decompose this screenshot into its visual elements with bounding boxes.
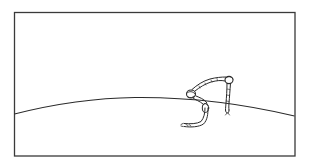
illustration	[0, 0, 314, 165]
frame-border	[15, 13, 296, 157]
snake-icon	[181, 76, 233, 127]
drawing-canvas	[0, 0, 314, 165]
horizon-line	[15, 97, 295, 116]
